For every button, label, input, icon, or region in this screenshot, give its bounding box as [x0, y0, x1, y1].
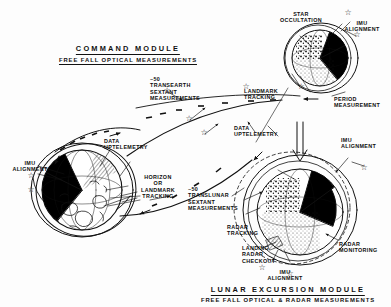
star-icon: ☆ — [297, 83, 304, 91]
label-data-uptelemetry-right: DATA UPTELEMETRY — [234, 125, 278, 138]
star-icon: ☆ — [360, 164, 367, 172]
diagram-canvas: ☆ ☆ ☆ ☆ ☆ ☆ ☆ ☆ ☆ ☆ ☆ ☆ COMMAND MODULE F… — [0, 0, 391, 307]
label-radar-tracking: RADAR TRACKING — [227, 224, 258, 237]
moon-bottom-globe — [257, 169, 343, 256]
star-icon: ☆ — [27, 186, 34, 194]
label-star-occultation: STAR OCCULTATION — [280, 11, 322, 24]
star-icon: ☆ — [27, 172, 34, 180]
command-module-subheading: FREE FALL OPTICAL MEASUREMENTS — [59, 57, 197, 65]
label-landing-radar-checkout: LANDING RADAR CHECKOUT — [242, 245, 275, 264]
label-translunar-sextant: ~50 TRANSLUNAR SEXTANT MEASUREMENTS — [188, 186, 238, 212]
label-period-measurement: PERIOD MEASUREMENT — [334, 96, 380, 109]
label-imu-alignment-topright: IMU ALIGNMENT — [344, 20, 379, 33]
label-radar-monitoring: RADAR MONITORING — [339, 241, 377, 254]
label-imu-alignment-bottom: IMU ALIGNMENT — [267, 269, 302, 282]
command-module-heading: COMMAND MODULE — [76, 44, 180, 55]
diagram-artwork — [0, 0, 391, 307]
label-imu-alignment-left: IMU ALIGNMENT — [12, 160, 47, 173]
label-imu-alignment-right: IMU ALIGNMENT — [341, 137, 376, 150]
label-landmark-tracking: LANDMARK TRACKING — [244, 88, 278, 101]
lem-heading: LUNAR EXCURSION MODULE — [211, 285, 365, 296]
label-horizon-or-landmark-tracking: HORIZON OR LANDMARK TRACKING — [141, 174, 175, 200]
star-icon: ☆ — [200, 129, 207, 137]
earth-globe — [41, 150, 122, 230]
label-transearth-sextant: ~50 TRANSEARTH SEXTANT MEASUREMENTS — [150, 76, 200, 102]
star-icon: ☆ — [344, 9, 351, 17]
label-data-uptelemetry-left: DATA UPTELEMETRY — [104, 138, 148, 151]
star-icon: ☆ — [258, 264, 265, 272]
moon-top-globe — [292, 30, 349, 86]
lem-subheading: FREE FALL OPTICAL & RADAR MEASUREMENTS — [201, 297, 375, 303]
star-icon: ☆ — [185, 115, 192, 123]
